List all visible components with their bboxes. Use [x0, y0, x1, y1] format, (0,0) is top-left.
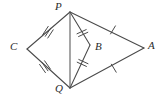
segment-BQ: [70, 45, 90, 88]
segment-CQ: [27, 49, 70, 88]
ticks-QA: [111, 64, 116, 72]
vertex-label-B: B: [95, 41, 102, 52]
segment-CP: [27, 12, 70, 49]
vertex-label-C: C: [10, 41, 17, 52]
vertex-label-P: P: [55, 1, 62, 12]
vertex-label-Q: Q: [55, 83, 63, 94]
segment-QA: [70, 48, 144, 88]
geometry-canvas: [0, 0, 163, 99]
geometry-diagram: P C A Q B: [0, 0, 163, 99]
vertex-label-A: A: [148, 40, 155, 51]
